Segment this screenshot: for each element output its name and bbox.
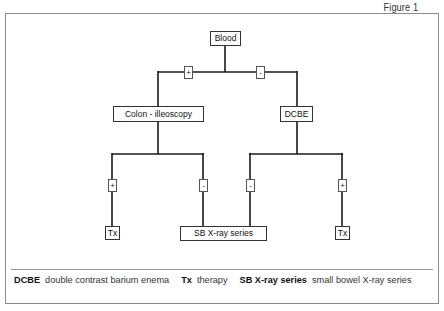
legend-definition-sb-xray: small bowel X-ray series — [312, 275, 412, 285]
node-tx-right: Tx — [335, 226, 350, 240]
edge-label-blood-dcbe: - — [256, 66, 265, 79]
node-dcbe: DCBE — [280, 106, 313, 122]
node-tx-left: Tx — [105, 226, 120, 240]
legend-separator — [11, 269, 433, 270]
legend: DCBEdouble contrast barium enemaTxtherap… — [14, 275, 412, 285]
tree-connectors — [0, 0, 444, 311]
legend-term-sb-xray: SB X-ray series — [240, 275, 307, 285]
legend-definition-tx: therapy — [197, 275, 228, 285]
edge-label-colon-tx: + — [108, 179, 117, 192]
legend-definition-dcbe: double contrast barium enema — [45, 275, 169, 285]
edge-label-dcbe-sb: - — [246, 179, 255, 192]
edge-label-dcbe-tx: + — [338, 179, 347, 192]
edge-label-blood-colon: + — [184, 66, 193, 79]
legend-term-tx: Tx — [181, 275, 192, 285]
node-colon-illeoscopy: Colon - illeoscopy — [113, 106, 204, 122]
edge-label-colon-sb: - — [199, 179, 208, 192]
legend-term-dcbe: DCBE — [14, 275, 40, 285]
node-blood: Blood — [210, 31, 241, 46]
node-sb-xray-series: SB X-ray series — [180, 226, 267, 241]
